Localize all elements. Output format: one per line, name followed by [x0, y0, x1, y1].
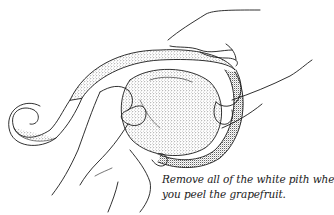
caption-line-2: you peel the grapefruit.: [162, 187, 334, 202]
caption-line-1: Remove all of the white pith when: [162, 172, 334, 187]
caption: Remove all of the white pith when you pe…: [162, 172, 334, 202]
